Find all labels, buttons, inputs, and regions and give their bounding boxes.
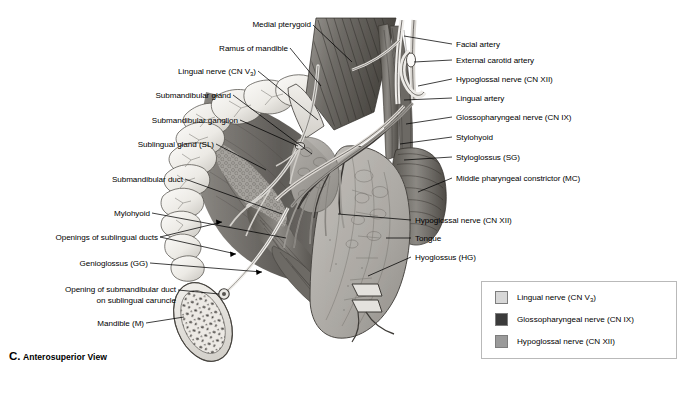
label-mylohyoid: Mylohyoid bbox=[0, 209, 150, 219]
caption-letter: C. bbox=[9, 350, 21, 362]
label-tongue: Tongue bbox=[415, 234, 441, 244]
label-external-carotid-artery: External carotid artery bbox=[456, 56, 534, 66]
label-lingual-artery: Lingual artery bbox=[456, 94, 504, 104]
label-lingual-nerve-cn-v3: Lingual nerve (CN V3) bbox=[0, 67, 256, 79]
figure-caption: C. Anterosuperior View bbox=[9, 350, 107, 362]
legend-row-lingual-nerve: Lingual nerve (CN V3) bbox=[495, 291, 596, 304]
label-opening-of-submandibular-duct-line2: on sublingual caruncle bbox=[97, 296, 176, 305]
label-glossopharyngeal-nerve-cn-ix: Glossopharyngeal nerve (CN IX) bbox=[456, 113, 571, 123]
label-medial-pterygoid: Medial pterygoid bbox=[0, 20, 311, 30]
label-middle-pharyngeal-constrictor-mc: Middle pharyngeal constrictor (MC) bbox=[456, 174, 580, 184]
label-ramus-of-mandible: Ramus of mandible bbox=[0, 44, 288, 54]
label-genioglossus-gg: Genioglossus (GG) bbox=[0, 259, 148, 269]
label-submandibular-ganglion: Submandibular ganglion bbox=[0, 116, 238, 126]
label-hypoglossal-nerve-cn-xii-top: Hypoglossal nerve (CN XII) bbox=[456, 75, 553, 85]
label-hyoglossus-hg: Hyoglossus (HG) bbox=[415, 253, 476, 263]
label-stylohyoid: Stylohyoid bbox=[456, 133, 493, 143]
label-mandible-m: Mandible (M) bbox=[0, 319, 144, 329]
label-hypoglossal-nerve-cn-xii: Hypoglossal nerve (CN XII) bbox=[415, 216, 512, 226]
figure-canvas: Medial pterygoid Ramus of mandible Lingu… bbox=[0, 0, 687, 393]
label-submandibular-gland: Submandibular gland bbox=[0, 91, 231, 101]
legend-swatch-glossopharyngeal-nerve bbox=[495, 313, 508, 326]
label-opening-of-submandibular-duct: Opening of submandibular duct on subling… bbox=[0, 285, 176, 306]
label-openings-of-sublingual-ducts: Openings of sublingual ducts bbox=[0, 233, 158, 243]
label-sublingual-gland-sl: Sublingual gland (SL) bbox=[0, 140, 214, 150]
legend-label-lingual-nerve: Lingual nerve (CN V3) bbox=[517, 293, 596, 303]
legend-box: Lingual nerve (CN V3) Glossopharyngeal n… bbox=[481, 281, 677, 359]
label-styloglossus-sg: Styloglossus (SG) bbox=[456, 153, 520, 163]
label-facial-artery: Facial artery bbox=[456, 40, 500, 50]
legend-row-hypoglossal-nerve: Hypoglossal nerve (CN XII) bbox=[495, 335, 615, 348]
label-submandibular-duct: Submandibular duct bbox=[0, 175, 183, 185]
caption-text: Anterosuperior View bbox=[23, 352, 107, 362]
legend-row-glossopharyngeal-nerve: Glossopharyngeal nerve (CN IX) bbox=[495, 313, 634, 326]
legend-label-hypoglossal-nerve: Hypoglossal nerve (CN XII) bbox=[517, 337, 615, 346]
legend-swatch-hypoglossal-nerve bbox=[495, 335, 508, 348]
legend-swatch-lingual-nerve bbox=[495, 291, 508, 304]
legend-label-glossopharyngeal-nerve: Glossopharyngeal nerve (CN IX) bbox=[517, 315, 634, 324]
